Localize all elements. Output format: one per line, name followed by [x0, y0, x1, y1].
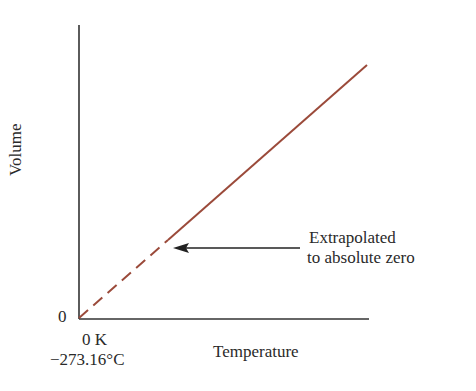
measured-solid-line	[168, 65, 367, 240]
x-origin-kelvin-label: 0 K	[82, 330, 107, 350]
annotation-line1: Extrapolated	[309, 228, 396, 248]
x-axis-label: Temperature	[213, 342, 299, 362]
chart-canvas	[0, 0, 476, 391]
y-origin-label: 0	[58, 307, 67, 327]
x-origin-celsius-label: −273.16°C	[50, 350, 124, 370]
extrapolated-dashed-line	[79, 240, 168, 318]
annotation-line2: to absolute zero	[307, 248, 415, 268]
y-axis-label: Volume	[6, 123, 26, 176]
